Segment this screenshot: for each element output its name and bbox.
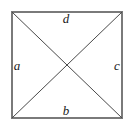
side-label-right: c [110,59,124,72]
geometry-figure: d b a c [0,0,134,131]
side-label-bottom: b [56,104,76,117]
side-label-top: d [56,12,76,25]
side-label-left: a [10,59,24,72]
